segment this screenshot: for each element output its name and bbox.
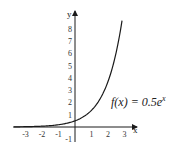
x-tick-label: 2 xyxy=(106,130,110,139)
y-tick-label: 8 xyxy=(68,25,72,34)
y-tick-label: 4 xyxy=(68,74,72,83)
function-label-text: f(x) = 0.5e xyxy=(111,95,163,109)
y-tick-label: -1 xyxy=(65,135,72,144)
y-tick-label: 7 xyxy=(68,37,72,46)
x-tick-label: 1 xyxy=(90,130,94,139)
function-label: f(x) = 0.5ex xyxy=(111,94,166,109)
y-tick-label: 6 xyxy=(68,49,72,58)
exponential-function-chart: -3-2-1123-112345678 x y f(x) = 0.5ex xyxy=(0,0,170,150)
y-tick-label: 5 xyxy=(68,62,72,71)
x-tick-label: -3 xyxy=(22,130,29,139)
y-axis-label: y xyxy=(67,9,72,19)
axes xyxy=(13,11,137,142)
x-axis-label: x xyxy=(133,125,138,135)
y-tick-label: 1 xyxy=(68,111,72,120)
function-label-exponent: x xyxy=(161,94,166,103)
x-tick-label: -2 xyxy=(39,130,46,139)
y-tick-label: 3 xyxy=(68,86,72,95)
y-tick-label: 2 xyxy=(68,98,72,107)
x-tick-label: 3 xyxy=(123,130,127,139)
x-tick-label: -1 xyxy=(55,130,62,139)
